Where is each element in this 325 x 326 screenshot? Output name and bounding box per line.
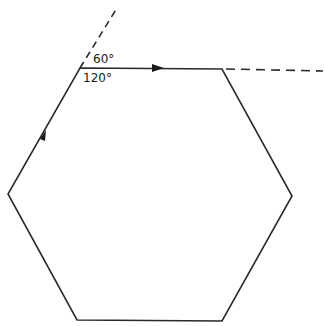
exterior-angle-label: 60° xyxy=(93,52,114,66)
arrow-icon-right xyxy=(152,64,164,72)
interior-angle-label: 120° xyxy=(83,71,112,85)
hexagon xyxy=(8,68,292,321)
dashed-extension-top-edge xyxy=(226,69,323,71)
hexagon-diagram: 60° 120° xyxy=(0,0,325,326)
